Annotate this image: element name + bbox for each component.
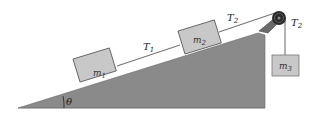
- label-t2-hanging: T2: [291, 17, 303, 30]
- pulley-axle: [278, 17, 281, 20]
- incline-pulley-diagram: m1 m2 m3 T1 T2 T2 θ: [0, 0, 311, 115]
- incline-wedge: [18, 33, 265, 108]
- label-angle-theta: θ: [66, 96, 72, 107]
- label-t2-incline: T2: [227, 12, 239, 25]
- label-t1: T1: [143, 41, 154, 54]
